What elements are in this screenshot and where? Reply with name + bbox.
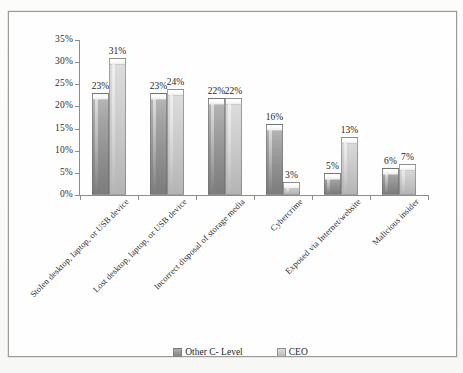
x-tick-mark <box>80 195 81 200</box>
bar-group: 6%7% <box>370 40 428 195</box>
bar-highlight <box>344 143 347 194</box>
legend-swatch-icon <box>173 348 182 357</box>
figure: 0%5%10%15%20%25%30%35% 23%31%23%24%22%22… <box>0 0 463 373</box>
legend-item-ceo[interactable]: CEO <box>277 347 308 357</box>
bar-value-label: 23% <box>92 81 110 91</box>
bar-ceo[interactable] <box>109 58 126 195</box>
category-label: Malicious insider <box>371 198 421 248</box>
bar-value-label: 16% <box>266 112 284 122</box>
bar-value-label: 13% <box>341 125 359 135</box>
x-tick-mark <box>196 195 197 200</box>
bar-other-c-level[interactable] <box>382 168 399 195</box>
y-tick-label: 30% <box>55 57 73 67</box>
plot-area: 0%5%10%15%20%25%30%35% 23%31%23%24%22%22… <box>80 40 428 195</box>
bar-highlight <box>385 174 388 194</box>
bar-other-c-level[interactable] <box>266 124 283 195</box>
x-tick-mark <box>370 195 371 200</box>
bar-other-c-level[interactable] <box>92 93 109 195</box>
bar-value-label: 31% <box>109 46 127 56</box>
bar-other-c-level[interactable] <box>208 98 225 195</box>
bar-highlight <box>95 99 98 194</box>
y-tick-label: 15% <box>55 124 73 134</box>
bar-value-label: 6% <box>384 156 397 166</box>
bar-value-label: 7% <box>401 152 414 162</box>
bar-value-label: 5% <box>326 161 339 171</box>
bar-highlight <box>327 179 330 194</box>
category-label: Stolen desktop, laptop, or USB device <box>29 198 131 300</box>
bar-highlight <box>211 104 214 194</box>
y-tick-label: 10% <box>55 146 73 156</box>
bar-ceo[interactable] <box>283 182 300 195</box>
bar-highlight <box>112 64 115 194</box>
bar-value-label: 23% <box>150 81 168 91</box>
y-tick-label: 5% <box>60 168 73 178</box>
bar-group: 23%24% <box>138 40 196 195</box>
y-tick-label: 25% <box>55 80 73 90</box>
bar-highlight <box>170 95 173 194</box>
bar-value-label: 22% <box>208 86 226 96</box>
bar-other-c-level[interactable] <box>150 93 167 195</box>
bar-highlight <box>228 104 231 194</box>
legend-label: CEO <box>289 347 308 357</box>
chart-legend: Other C- LevelCEO <box>17 344 463 360</box>
bar-ceo[interactable] <box>225 98 242 195</box>
y-tick-label: 35% <box>55 35 73 45</box>
bar-group: 5%13% <box>312 40 370 195</box>
bar-highlight <box>286 188 289 194</box>
legend-item-other-c-level[interactable]: Other C- Level <box>173 347 243 357</box>
bar-ceo[interactable] <box>399 164 416 195</box>
x-tick-mark <box>312 195 313 200</box>
bar-group: 16%3% <box>254 40 312 195</box>
legend-swatch-icon <box>277 348 286 357</box>
bar-ceo[interactable] <box>167 89 184 195</box>
x-tick-mark <box>138 195 139 200</box>
x-tick-mark <box>428 195 429 200</box>
y-tick-label: 20% <box>55 102 73 112</box>
bar-value-label: 3% <box>285 170 298 180</box>
chart-frame: 0%5%10%15%20%25%30%35% 23%31%23%24%22%22… <box>8 11 457 357</box>
bar-group: 22%22% <box>196 40 254 195</box>
bar-highlight <box>269 130 272 194</box>
bar-group: 23%31% <box>80 40 138 195</box>
legend-label: Other C- Level <box>185 347 243 357</box>
bar-highlight <box>153 99 156 194</box>
x-tick-mark <box>254 195 255 200</box>
bar-value-label: 24% <box>167 77 185 87</box>
bar-highlight <box>402 170 405 194</box>
bar-other-c-level[interactable] <box>324 173 341 195</box>
y-tick-label: 0% <box>60 190 73 200</box>
bar-value-label: 22% <box>225 86 243 96</box>
category-label: Cybercrime <box>270 198 306 234</box>
bar-ceo[interactable] <box>341 137 358 195</box>
